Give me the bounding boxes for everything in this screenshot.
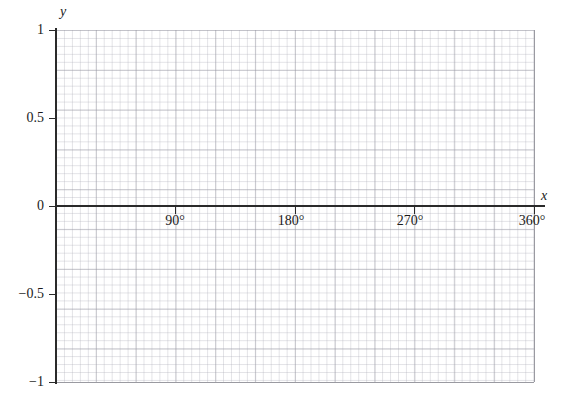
x-axis-name-label: x bbox=[541, 188, 547, 204]
x-axis-line bbox=[55, 205, 545, 207]
x-tick-label-90: 90° bbox=[145, 213, 205, 229]
y-axis-name-label: y bbox=[60, 4, 66, 20]
y-tick-label-neg-1: −1 bbox=[0, 374, 44, 390]
y-tick-label-neg-0-5: −0.5 bbox=[0, 286, 44, 302]
y-tick-label-0-5: 0.5 bbox=[0, 110, 44, 126]
x-tick-label-360: 360° bbox=[502, 213, 562, 229]
y-tick-mark-neg-0-5 bbox=[49, 294, 57, 295]
y-tick-mark-0-5 bbox=[49, 118, 57, 119]
y-tick-mark-1 bbox=[49, 30, 57, 31]
y-tick-mark-neg-1 bbox=[49, 382, 57, 383]
x-tick-label-180: 180° bbox=[261, 213, 321, 229]
trig-graph-figure: 1 0.5 0 −0.5 −1 90° 180° 270° 360° y x bbox=[0, 0, 574, 398]
plot-bottom-border bbox=[56, 382, 534, 383]
y-tick-label-1: 1 bbox=[0, 22, 44, 38]
x-tick-label-270: 270° bbox=[380, 213, 440, 229]
y-tick-mark-0 bbox=[49, 206, 57, 207]
y-tick-label-0: 0 bbox=[0, 198, 44, 214]
